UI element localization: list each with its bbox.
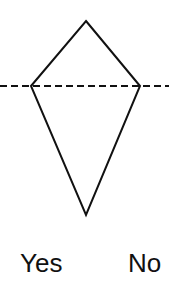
kite-diagram: [0, 0, 169, 282]
option-yes[interactable]: Yes: [20, 250, 62, 276]
option-no[interactable]: No: [128, 250, 161, 276]
kite-shape: [31, 21, 140, 215]
